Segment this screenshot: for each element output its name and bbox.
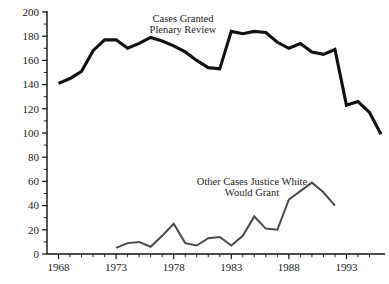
y-tick-label: 20 bbox=[28, 224, 40, 236]
y-tick-label: 100 bbox=[23, 127, 40, 139]
y-tick-label: 40 bbox=[28, 199, 40, 211]
y-tick-label: 180 bbox=[23, 30, 40, 42]
x-tick-label: 1983 bbox=[220, 261, 243, 273]
chart-container: 0204060801001201401601802001968197319781… bbox=[0, 0, 389, 284]
x-tick-label: 1993 bbox=[335, 261, 358, 273]
y-tick-label: 80 bbox=[28, 151, 40, 163]
y-tick-label: 0 bbox=[34, 248, 40, 260]
y-tick-label: 120 bbox=[23, 103, 40, 115]
line-chart: 0204060801001201401601802001968197319781… bbox=[0, 0, 389, 284]
annotation-cases-granted-line1: Cases Granted bbox=[153, 13, 215, 24]
y-tick-label: 200 bbox=[23, 6, 40, 18]
x-tick-label: 1978 bbox=[163, 261, 186, 273]
y-tick-label: 160 bbox=[23, 54, 40, 66]
x-tick-label: 1973 bbox=[105, 261, 128, 273]
x-tick-label: 1968 bbox=[48, 261, 71, 273]
annotation-cases-granted-line2: Plenary Review bbox=[150, 24, 217, 35]
x-tick-label: 1988 bbox=[278, 261, 301, 273]
y-tick-label: 140 bbox=[23, 78, 40, 90]
annotation-white-would-grant-line2: Would Grant bbox=[225, 187, 279, 198]
y-tick-label: 60 bbox=[28, 175, 40, 187]
annotation-white-would-grant-line1: Other Cases Justice White bbox=[197, 176, 308, 187]
series-line-cases-granted bbox=[59, 31, 381, 134]
